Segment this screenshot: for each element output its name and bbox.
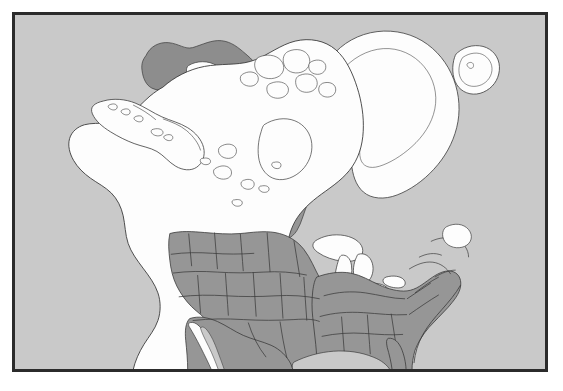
newfoundland [443,224,472,248]
map-frame [12,12,548,372]
figure-page [0,0,563,391]
north-america-range-map [14,14,546,370]
